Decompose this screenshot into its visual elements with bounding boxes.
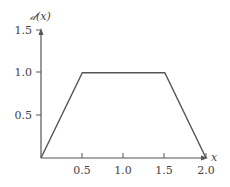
y-axis-label: 𝒹(x) <box>30 10 51 23</box>
x-tick-label: 1.5 <box>155 164 173 177</box>
x-tick-label: 1.0 <box>114 164 132 177</box>
series-line <box>41 73 206 158</box>
y-ticks <box>36 30 41 115</box>
y-tick-label: 0.5 <box>15 109 33 122</box>
x-tick-label: 2.0 <box>197 164 215 177</box>
chart: 0.5 1.0 1.5 0.5 1.0 1.5 2.0 𝒹(x) x <box>0 0 230 187</box>
y-axis-arrow-icon <box>39 28 44 35</box>
x-ticks <box>82 153 206 158</box>
x-tick-label: 0.5 <box>73 164 91 177</box>
y-tick-label: 1.5 <box>15 24 33 37</box>
y-tick-label: 1.0 <box>15 66 33 79</box>
x-axis-label: x <box>211 151 218 164</box>
